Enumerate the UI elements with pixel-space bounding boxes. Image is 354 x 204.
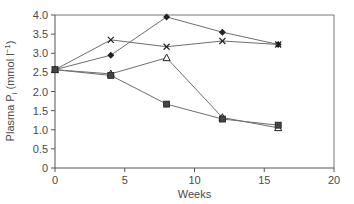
y-tick-label: 4.0 bbox=[33, 9, 48, 21]
line-chart: 00.51.01.52.02.53.03.54.005101520 Weeks … bbox=[0, 0, 354, 204]
x-tick-label: 5 bbox=[122, 174, 128, 186]
data-point-square bbox=[164, 101, 170, 107]
y-axis-title: Plasma Pi (mmol l−1) bbox=[3, 41, 19, 142]
data-point-square bbox=[219, 116, 225, 122]
data-point-diamond bbox=[163, 13, 170, 20]
axes: 00.51.01.52.02.53.03.54.005101520 bbox=[33, 9, 340, 186]
y-tick-label: 2.0 bbox=[33, 86, 48, 98]
x-tick-label: 0 bbox=[52, 174, 58, 186]
data-point-square bbox=[275, 122, 281, 128]
plot-frame bbox=[55, 15, 334, 168]
x-tick-label: 15 bbox=[258, 174, 270, 186]
data-point-square bbox=[52, 67, 58, 73]
series-line-triangle bbox=[55, 58, 278, 128]
series-group bbox=[52, 13, 282, 130]
series-line-square bbox=[55, 70, 278, 125]
data-point-square bbox=[108, 72, 114, 78]
y-axis-title-units: (mmol l bbox=[4, 53, 16, 92]
y-tick-label: 1.5 bbox=[33, 105, 48, 117]
x-tick-label: 10 bbox=[188, 174, 200, 186]
y-tick-label: 2.5 bbox=[33, 66, 48, 78]
x-axis-title: Weeks bbox=[178, 188, 212, 200]
series-line-diamond bbox=[55, 17, 278, 70]
y-axis-title-units-close: ) bbox=[4, 41, 16, 45]
y-axis-title-main: Plasma P bbox=[4, 94, 16, 141]
y-tick-label: 1.0 bbox=[33, 124, 48, 136]
y-tick-label: 3.5 bbox=[33, 28, 48, 40]
y-tick-label: 0 bbox=[42, 162, 48, 174]
x-tick-label: 20 bbox=[328, 174, 340, 186]
data-point-diamond bbox=[107, 52, 114, 59]
y-tick-label: 0.5 bbox=[33, 143, 48, 155]
data-point-diamond bbox=[219, 29, 226, 36]
data-point-triangle bbox=[163, 54, 170, 61]
y-tick-label: 3.0 bbox=[33, 47, 48, 59]
